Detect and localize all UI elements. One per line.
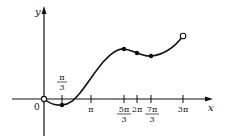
- open-point-3pi: [180, 33, 186, 39]
- point-7pi-over-3-minimum: [149, 54, 153, 58]
- x-axis-label: x: [208, 102, 214, 113]
- function-curve: [44, 36, 183, 105]
- svg-text:π: π: [59, 73, 64, 82]
- function-graph: y x 0 π 3 π 5π 3 2π 7π 3 3π: [0, 0, 227, 139]
- origin-label: 0: [34, 102, 40, 112]
- tick-label-5pi-over-3: 5π 3: [117, 105, 131, 124]
- x-axis-arrow-icon: [205, 97, 213, 102]
- tick-label-7pi-over-3: 7π 3: [145, 105, 159, 124]
- svg-text:7π: 7π: [147, 105, 157, 114]
- tick-label-2pi: 2π: [132, 105, 142, 114]
- svg-text:3: 3: [121, 115, 126, 124]
- open-point-origin: [41, 96, 46, 101]
- svg-text:3: 3: [149, 115, 154, 124]
- tick-label-3pi: 3π: [178, 105, 188, 114]
- tick-label-pi-over-3: π 3: [57, 73, 67, 92]
- svg-text:3: 3: [59, 83, 64, 92]
- svg-text:5π: 5π: [119, 105, 129, 114]
- point-2pi: [135, 51, 139, 55]
- tick-label-pi: π: [88, 105, 93, 114]
- y-axis-label: y: [34, 6, 41, 17]
- point-pi-over-3-minimum: [60, 103, 64, 107]
- y-axis-arrow-icon: [42, 6, 47, 14]
- point-5pi-over-3-maximum: [122, 47, 126, 51]
